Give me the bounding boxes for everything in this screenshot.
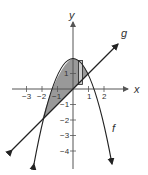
ytick-label: −3 bbox=[60, 131, 70, 140]
ytick-label: 1 bbox=[64, 69, 69, 78]
ytick-label: −4 bbox=[60, 147, 70, 156]
xtick-label: 1 bbox=[87, 92, 92, 101]
ytick-label: −2 bbox=[60, 116, 70, 125]
xtick-label: −2 bbox=[37, 92, 47, 101]
g-label: g bbox=[121, 27, 128, 39]
xtick-label: 2 bbox=[102, 92, 107, 101]
xtick-label: −3 bbox=[22, 92, 32, 101]
y-axis-label: y bbox=[68, 9, 76, 21]
ytick-label: −1 bbox=[60, 100, 70, 109]
x-axis-label: x bbox=[133, 83, 140, 95]
f-label: f bbox=[112, 122, 116, 134]
graph: −3 −2 −1 1 2 1 −1 −2 −3 −4 x y g f bbox=[0, 0, 148, 175]
